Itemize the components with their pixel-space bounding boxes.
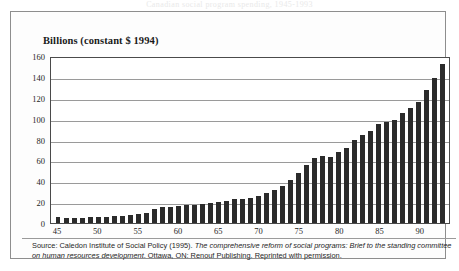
bar-56	[144, 213, 149, 223]
bar-90	[416, 102, 421, 223]
bar-60	[176, 206, 181, 223]
y-axis-tick-160: 160	[21, 52, 45, 62]
x-axis-tick-85: 85	[375, 226, 384, 236]
bar-91	[424, 90, 429, 223]
bar-series	[51, 58, 449, 223]
figure-frame: Billions (constant $ 1994) 0204060801001…	[10, 11, 446, 259]
bar-92	[432, 78, 437, 223]
bar-51	[104, 217, 109, 223]
bar-89	[408, 108, 413, 223]
bar-slot	[262, 58, 270, 223]
bar-74	[288, 180, 293, 223]
bar-slot	[62, 58, 70, 223]
source-divider	[22, 238, 456, 239]
bar-slot	[351, 58, 359, 223]
bar-53	[120, 216, 125, 223]
bar-72	[272, 190, 277, 223]
bar-77	[312, 158, 317, 223]
x-axis: 45505560657075808590	[50, 226, 450, 238]
bar-slot	[110, 58, 118, 223]
y-axis-tick-140: 140	[21, 73, 45, 83]
bar-73	[280, 186, 285, 223]
bar-54	[128, 215, 133, 223]
bar-slot	[230, 58, 238, 223]
bar-slot	[158, 58, 166, 223]
x-axis-tick-75: 75	[295, 226, 304, 236]
plot-area	[50, 57, 450, 224]
bar-70	[256, 196, 261, 223]
bar-slot	[375, 58, 383, 223]
page-bleed-text: Canadian social program spending, 1945-1…	[0, 0, 459, 10]
x-axis-tick-55: 55	[133, 226, 142, 236]
bar-78	[320, 156, 325, 223]
bar-47	[72, 218, 77, 223]
bar-slot	[150, 58, 158, 223]
bar-slot	[270, 58, 278, 223]
bar-slot	[118, 58, 126, 223]
bar-slot	[174, 58, 182, 223]
bar-52	[112, 216, 117, 223]
bar-69	[248, 198, 253, 223]
bar-50	[96, 217, 101, 223]
bar-slot	[383, 58, 391, 223]
y-axis-tick-40: 40	[21, 177, 45, 187]
x-axis-tick-45: 45	[53, 226, 62, 236]
bar-75	[296, 173, 301, 223]
bar-83	[360, 135, 365, 223]
bar-slot	[222, 58, 230, 223]
bar-88	[400, 113, 405, 223]
bar-76	[304, 165, 309, 223]
bar-64	[208, 203, 213, 223]
bar-slot	[102, 58, 110, 223]
bar-slot	[302, 58, 310, 223]
bar-slot	[78, 58, 86, 223]
bar-slot	[70, 58, 78, 223]
bar-slot	[294, 58, 302, 223]
y-axis: 020406080100120140160	[21, 57, 47, 225]
x-axis-tick-65: 65	[214, 226, 223, 236]
bar-slot	[166, 58, 174, 223]
bar-57	[152, 209, 157, 223]
bar-slot	[214, 58, 222, 223]
bar-slot	[198, 58, 206, 223]
bar-slot	[343, 58, 351, 223]
x-axis-tick-70: 70	[254, 226, 263, 236]
y-axis-tick-100: 100	[21, 115, 45, 125]
bar-slot	[142, 58, 150, 223]
plot-wrapper	[50, 57, 450, 225]
y-axis-tick-60: 60	[21, 156, 45, 166]
chart-title: Billions (constant $ 1994)	[43, 35, 159, 46]
bar-slot	[238, 58, 246, 223]
bar-slot	[311, 58, 319, 223]
bar-85	[376, 124, 381, 223]
bar-slot	[190, 58, 198, 223]
y-axis-tick-80: 80	[21, 136, 45, 146]
bar-slot	[335, 58, 343, 223]
bar-86	[384, 122, 389, 223]
x-axis-tick-90: 90	[416, 226, 425, 236]
bar-48	[80, 218, 85, 223]
bar-58	[160, 207, 165, 223]
bar-79	[328, 157, 333, 223]
bar-87	[392, 120, 397, 223]
bar-59	[168, 207, 173, 223]
bar-slot	[359, 58, 367, 223]
x-axis-tick-60: 60	[174, 226, 183, 236]
bar-93	[440, 64, 445, 223]
bar-slot	[327, 58, 335, 223]
bar-slot	[254, 58, 262, 223]
source-prefix: Source: Caledon Institute of Social Poli…	[32, 241, 195, 250]
bar-slot	[86, 58, 94, 223]
bar-slot	[399, 58, 407, 223]
bar-slot	[182, 58, 190, 223]
source-suffix: . Ottawa, ON: Renouf Publishing. Reprint…	[144, 251, 342, 260]
bar-slot	[391, 58, 399, 223]
bar-slot	[407, 58, 415, 223]
bar-84	[368, 131, 373, 223]
bar-46	[64, 218, 69, 223]
bar-49	[88, 217, 93, 223]
bar-82	[352, 140, 357, 224]
y-axis-tick-120: 120	[21, 94, 45, 104]
bar-61	[184, 205, 189, 223]
bar-62	[192, 205, 197, 223]
